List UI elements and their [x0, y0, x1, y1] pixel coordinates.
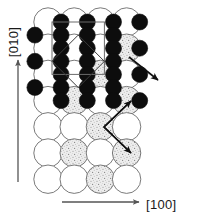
vertical-axis-label: [010] [6, 27, 21, 57]
small-atom-filled [106, 93, 122, 109]
large-atom-open [34, 165, 62, 193]
large-atom-open [86, 139, 114, 167]
large-atom-shaded [60, 139, 88, 167]
figure-canvas: [010] [100] [0, 0, 208, 217]
large-atom-open [112, 113, 140, 141]
small-atom-filled [27, 27, 43, 43]
large-atom-open [34, 113, 62, 141]
large-atom-open [60, 165, 88, 193]
small-atom-filled [132, 14, 148, 30]
horizontal-axis-label: [100] [146, 197, 176, 212]
small-atom-filled [27, 53, 43, 69]
vertical-axis: [010] [6, 27, 21, 182]
small-atom-filled [79, 93, 95, 109]
large-atom-shaded [86, 113, 114, 141]
crystal-structure-figure: [010] [100] [0, 0, 208, 217]
large-atom-shaded [86, 165, 114, 193]
small-atom-filled [132, 40, 148, 56]
lattice-group [27, 8, 148, 194]
large-atom-open [34, 139, 62, 167]
small-atom-filled [132, 66, 148, 82]
large-atom-open [60, 113, 88, 141]
large-atom-open [112, 165, 140, 193]
horizontal-axis: [100] [62, 197, 176, 212]
small-atom-filled [53, 93, 69, 109]
large-atom-shaded [112, 139, 140, 167]
small-atom-filled [27, 80, 43, 96]
small-atom-filled [132, 93, 148, 109]
